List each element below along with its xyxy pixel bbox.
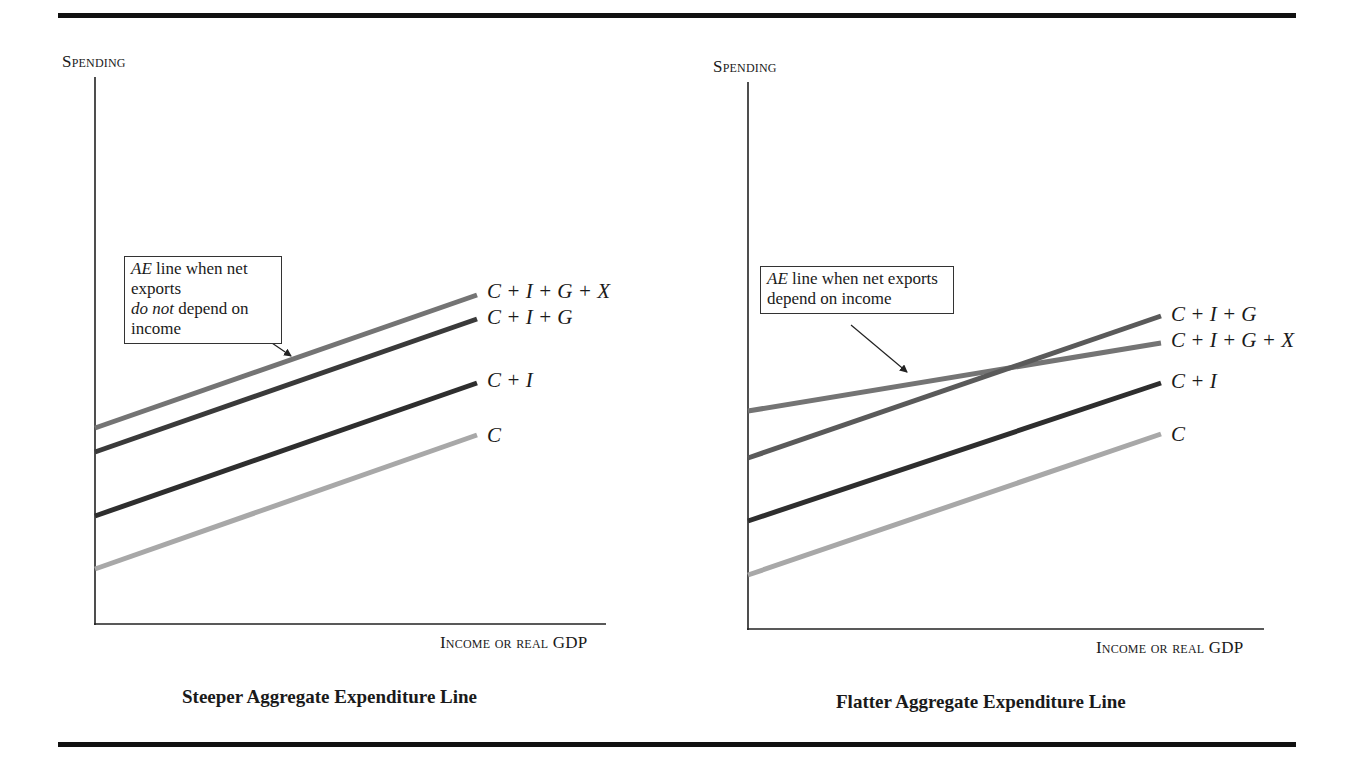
right-callout-em1: AE [767, 269, 788, 288]
right-line-cigx [748, 343, 1161, 411]
left-label-cigx: C + I + G + X [487, 279, 610, 304]
left-y-axis-label-text: Spending [62, 52, 126, 71]
left-label-c: C [487, 423, 501, 448]
left-line-c [95, 435, 477, 569]
right-x-axis-label-text: Income or real GDP [1096, 638, 1243, 657]
right-line-cig [748, 316, 1161, 458]
left-callout-em2: do not [131, 299, 174, 318]
right-panel-title: Flatter Aggregate Expenditure Line [836, 691, 1126, 713]
right-label-ci: C + I [1171, 369, 1217, 394]
right-callout-line2: depend on income [767, 289, 947, 309]
left-callout-em1: AE [131, 259, 152, 278]
right-label-cigx: C + I + G + X [1171, 328, 1294, 353]
left-callout-line1: AE line when net exports [131, 259, 275, 299]
right-panel-plot [747, 82, 1264, 630]
right-callout-rest1: line when net exports [788, 269, 938, 288]
left-callout-line2: do not depend on income [131, 299, 275, 339]
right-line-ci [748, 383, 1161, 521]
left-x-axis-label: Income or real GDP [440, 633, 587, 653]
left-x-axis-label-text: Income or real GDP [440, 633, 587, 652]
left-y-axis-label: Spending [62, 52, 126, 72]
left-panel-plot [94, 77, 606, 625]
right-label-c: C [1171, 422, 1185, 447]
right-callout-arrow [851, 325, 907, 372]
right-label-cig: C + I + G [1171, 302, 1257, 327]
left-panel-title: Steeper Aggregate Expenditure Line [182, 686, 477, 708]
right-callout-rest2: depend on income [767, 289, 892, 308]
left-callout-box: AE line when net exports do not depend o… [124, 256, 282, 344]
right-callout-box: AE line when net exports depend on incom… [760, 266, 954, 314]
right-y-axis-label: Spending [713, 57, 777, 77]
left-label-ci: C + I [487, 368, 533, 393]
left-line-ci [95, 383, 477, 516]
right-callout-line1: AE line when net exports [767, 269, 947, 289]
right-line-c [748, 434, 1161, 575]
right-x-axis-label: Income or real GDP [1096, 638, 1243, 658]
right-y-axis-label-text: Spending [713, 57, 777, 76]
left-label-cig: C + I + G [487, 305, 573, 330]
